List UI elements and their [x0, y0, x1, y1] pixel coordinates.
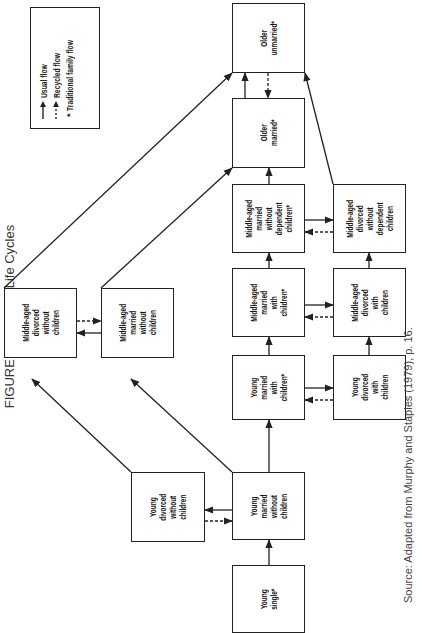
dashed-arrow-icon [52, 98, 62, 120]
legend-item-recycled-flow: Recycled flow [50, 16, 63, 120]
legend-item-usual-flow: Usual flow [37, 16, 50, 120]
node-label: Middle-aged married without children [118, 304, 158, 342]
node-older-married: Older married* [232, 98, 305, 168]
node-middle-divorced-with-children: Middle-aged divorced with children [333, 268, 406, 337]
legend: Usual flow Recycled flow * Traditional f… [30, 7, 100, 129]
node-label: Young divorced without children [148, 494, 188, 521]
node-young-divorced-with-children: Young divorced with children [333, 355, 406, 420]
node-label: Older married* [259, 120, 279, 146]
node-label: Middle-aged divorced with children [350, 284, 390, 322]
node-older-unmarried: Older unmarried* [232, 3, 305, 73]
legend-item-traditional-flow: * Traditional family flow [63, 16, 76, 120]
solid-arrow-icon [39, 98, 49, 120]
node-middle-married-without-children: Middle-aged married without children [101, 288, 174, 358]
asterisk-icon: * [65, 111, 75, 120]
node-label: Middle-aged divorced without children [21, 304, 61, 342]
node-label: Older unmarried* [259, 21, 279, 55]
node-middle-married-without-dependent-children: Middle-aged married without dependent ch… [232, 184, 305, 253]
node-young-single: Young single* [232, 565, 305, 633]
rotated-figure-page: FIGURE 4.1. Family Life Cycles [0, 0, 422, 633]
node-young-married-with-children: Young married with children* [232, 355, 305, 420]
node-middle-divorced-without-children: Middle-aged divorced without children [4, 288, 77, 358]
node-young-married-without-children: Young married without children [232, 472, 305, 540]
node-label: Middle-aged divorced without dependent c… [345, 200, 395, 238]
node-label: Young married without children [249, 493, 289, 518]
node-label: Young married with children* [249, 374, 289, 402]
node-young-divorced-without-children: Young divorced without children [131, 472, 205, 542]
node-label: Middle-aged married without dependent ch… [244, 200, 294, 238]
node-label: Young single* [259, 588, 279, 609]
figure-source: Source: Adapted from Murphy and Staples … [402, 327, 414, 603]
node-middle-married-with-children: Middle-aged married with children* [232, 268, 305, 337]
node-label: Middle-aged married with children* [249, 284, 289, 322]
node-middle-divorced-without-dependent-children: Middle-aged divorced without dependent c… [333, 184, 406, 253]
node-label: Young divorced with children [350, 374, 390, 401]
